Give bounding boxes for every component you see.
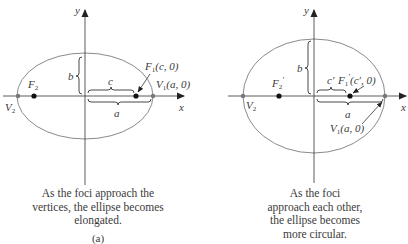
focus-f1-pointer-b [353,86,364,93]
brace-c-label-a: c [108,75,113,87]
focus-f2-label-a: F2 [27,78,39,92]
caption-panel-a: As the foci approach the vertices, the e… [12,187,184,228]
brace-a-a [88,99,151,105]
vertex-v2-point-a [16,94,20,98]
sublabel-panel-a: (a) [0,232,196,244]
vertex-v2-label-a: V2 [5,101,16,115]
x-axis-label-b: x [400,101,406,113]
vertex-v1-pointer-b [362,102,382,124]
caption-b-line-1: As the foci [252,187,378,201]
brace-b-label-a: b [68,70,74,82]
caption-b-line-4: more circular. [252,228,378,242]
focus-f1-pointer-a [138,74,150,92]
vertex-v1-point-b [383,94,387,98]
focus-f1-point-b [347,93,352,98]
caption-panel-b: As the foci approach each other, the ell… [252,187,378,241]
caption-a-line-3: elongated. [12,214,184,228]
brace-c-a [88,87,134,93]
focus-f2-point-b [276,93,281,98]
x-axis-label-a: x [178,101,184,113]
caption-b-line-3: the ellipse becomes [252,214,378,228]
brace-a-label-b: a [345,108,351,120]
brace-c-label-b: c′ [327,74,335,86]
y-axis-label-b: y [303,4,309,16]
vertex-v1-point-a [151,94,155,98]
brace-b-label-b: b [297,62,303,74]
vertex-v2-label-b: V2 [246,99,257,113]
caption-a-line-1: As the foci approach the [12,187,184,201]
caption-a-line-2: vertices, the ellipse becomes [12,201,184,215]
focus-f2-label-b: F2′ [271,76,284,91]
brace-a-b [317,99,383,105]
vertex-v1-label-b: V1(a, 0) [330,122,364,136]
brace-a-label-a: a [114,107,120,119]
focus-f1-label-a: F1(c, 0) [144,60,179,74]
brace-c-b [317,87,346,93]
panel-b: y x b c′ a F2′ V2 F1′(c′, 0) V1(a, 0) [228,4,406,183]
focus-f1-point-a [133,93,138,98]
focus-f2-point-a [31,93,36,98]
vertex-v2-point-b [241,94,245,98]
brace-b-a [76,57,82,94]
vertex-v1-label-a: V1(a, 0) [156,78,190,92]
y-axis-label-a: y [74,4,80,16]
focus-f1-label-b: F1′(c′, 0) [337,73,376,88]
caption-b-line-2: approach each other, [252,201,378,215]
panel-a: y x b c a F2 V2 F1(c, 0) V1(a, 0) [3,4,190,185]
brace-b-b [305,41,311,94]
